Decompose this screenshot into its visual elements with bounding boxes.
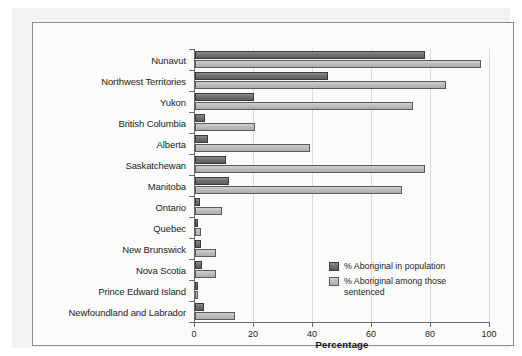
legend-item-sentenced: % Aboriginal among those sentenced — [329, 276, 479, 298]
legend-label-sentenced: % Aboriginal among those sentenced — [344, 276, 479, 298]
x-tick-40 — [312, 322, 313, 327]
figure-plot-panel: 020406080100 NunavutNorthwest Territorie… — [32, 22, 514, 346]
bar-population-10 — [195, 261, 202, 269]
bar-sentenced-12 — [195, 312, 235, 320]
x-tick-label-80: 80 — [425, 329, 435, 339]
bar-sentenced-5 — [195, 165, 425, 173]
legend-swatch-dark-icon — [329, 262, 339, 271]
y-tick-12 — [189, 301, 194, 302]
category-label-manitoba: Manitoba — [148, 180, 186, 191]
y-tick-2 — [189, 91, 194, 92]
category-label-new-brunswick: New Brunswick — [122, 243, 186, 254]
chart-screenshot: 020406080100 NunavutNorthwest Territorie… — [0, 0, 522, 356]
bar-sentenced-9 — [195, 249, 216, 257]
y-tick-5 — [189, 154, 194, 155]
bar-sentenced-10 — [195, 270, 216, 278]
category-label-newfoundland-and-labrador: Newfoundland and Labrador — [69, 306, 186, 317]
x-tick-label-40: 40 — [307, 329, 317, 339]
bar-population-6 — [195, 177, 229, 185]
bar-population-12 — [195, 303, 204, 311]
bar-sentenced-8 — [195, 228, 201, 236]
y-tick-10 — [189, 259, 194, 260]
category-label-northwest-territories: Northwest Territories — [101, 75, 186, 86]
y-tick-0 — [189, 49, 194, 50]
bar-sentenced-2 — [195, 102, 413, 110]
y-tick-4 — [189, 133, 194, 134]
category-label-british-columbia: British Columbia — [118, 117, 186, 128]
category-label-alberta: Alberta — [157, 138, 186, 149]
x-axis-line — [194, 322, 490, 323]
bar-sentenced-1 — [195, 81, 446, 89]
bar-sentenced-3 — [195, 123, 255, 131]
y-tick-8 — [189, 217, 194, 218]
category-label-saskatchewan: Saskatchewan — [125, 159, 186, 170]
category-label-ontario: Ontario — [156, 201, 186, 212]
x-tick-0 — [194, 322, 195, 327]
bar-population-9 — [195, 240, 201, 248]
category-label-nunavut: Nunavut — [151, 54, 186, 65]
y-tick-3 — [189, 112, 194, 113]
y-tick-end — [189, 322, 194, 323]
y-tick-9 — [189, 238, 194, 239]
x-tick-label-60: 60 — [366, 329, 376, 339]
chart-legend: % Aboriginal in population % Aboriginal … — [329, 261, 479, 302]
category-label-prince-edward-island: Prince Edward Island — [98, 285, 186, 296]
bar-population-11 — [195, 282, 198, 290]
bar-population-4 — [195, 135, 208, 143]
bar-population-1 — [195, 72, 328, 80]
bar-sentenced-11 — [195, 291, 198, 299]
figure-outer-frame: 020406080100 NunavutNorthwest Territorie… — [12, 8, 510, 348]
x-tick-label-0: 0 — [191, 329, 196, 339]
x-tick-label-20: 20 — [248, 329, 258, 339]
legend-swatch-light-icon — [329, 277, 339, 286]
bar-sentenced-4 — [195, 144, 310, 152]
y-tick-1 — [189, 70, 194, 71]
gridline-100 — [489, 49, 490, 322]
x-axis-title: Percentage — [194, 339, 490, 350]
y-tick-7 — [189, 196, 194, 197]
x-tick-60 — [371, 322, 372, 327]
bar-sentenced-0 — [195, 60, 481, 68]
bar-population-5 — [195, 156, 226, 164]
category-label-nova-scotia: Nova Scotia — [136, 264, 186, 275]
y-tick-6 — [189, 175, 194, 176]
bar-population-7 — [195, 198, 200, 206]
bar-population-3 — [195, 114, 205, 122]
bar-sentenced-7 — [195, 207, 222, 215]
category-label-yukon: Yukon — [160, 96, 186, 107]
x-tick-20 — [253, 322, 254, 327]
x-tick-label-100: 100 — [481, 329, 496, 339]
bar-population-8 — [195, 219, 198, 227]
bar-population-2 — [195, 93, 254, 101]
y-tick-11 — [189, 280, 194, 281]
bar-sentenced-6 — [195, 186, 402, 194]
bar-population-0 — [195, 51, 425, 59]
category-label-quebec: Quebec — [153, 222, 186, 233]
legend-label-population: % Aboriginal in population — [344, 261, 445, 272]
x-tick-80 — [430, 322, 431, 327]
x-tick-100 — [489, 322, 490, 327]
legend-item-population: % Aboriginal in population — [329, 261, 479, 272]
